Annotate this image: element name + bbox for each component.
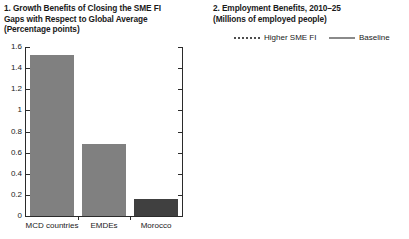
- panel1-ytick-right: [178, 110, 182, 111]
- panel2-title-line1: 2. Employment Benefits, 2010–25: [213, 3, 407, 14]
- panel1-ytick-right: [178, 216, 182, 217]
- panel1-title-line1: 1. Growth Benefits of Closing the SME FI: [4, 3, 200, 14]
- panel1-ytick-right: [178, 153, 182, 154]
- panel1-ytick-right: [178, 195, 182, 196]
- panel1-ytick-label: 1.2: [11, 85, 22, 93]
- panel1-ytick-right: [178, 89, 182, 90]
- panel1-ytick-left: [26, 47, 30, 48]
- panel2-title-line2: (Millions of employed people): [213, 14, 407, 25]
- panel1-xtick: [130, 216, 131, 220]
- panel1-plot-area: 00.20.40.60.811.21.41.6MCD countriesEMDE…: [25, 47, 183, 217]
- dashed-line-icon: [234, 37, 260, 39]
- panel1-xtick-label: EMDEs: [90, 221, 117, 230]
- panel1-ytick-label: 1.4: [11, 64, 22, 72]
- panel1-ytick-left: [26, 216, 30, 217]
- panel1-ytick-label: 0: [18, 212, 22, 220]
- panel-growth-benefits: 1. Growth Benefits of Closing the SME FI…: [0, 0, 205, 239]
- panel2-legend: Higher SME FI Baseline: [224, 33, 402, 44]
- legend-label-baseline: Baseline: [359, 33, 390, 42]
- figure-container: 1. Growth Benefits of Closing the SME FI…: [0, 0, 409, 239]
- panel1-title: 1. Growth Benefits of Closing the SME FI…: [4, 3, 200, 35]
- panel1-ytick-label: 0.2: [11, 191, 22, 199]
- panel2-title: 2. Employment Benefits, 2010–25 (Million…: [213, 3, 407, 24]
- panel1-ytick-right: [178, 68, 182, 69]
- legend-item-baseline: Baseline: [329, 33, 390, 42]
- panel1-ytick-right: [178, 47, 182, 48]
- panel1-ytick-right: [178, 174, 182, 175]
- panel1-ytick-label: 1: [18, 106, 22, 114]
- panel1-ytick-label: 0.8: [11, 128, 22, 136]
- bar-morocco: [134, 199, 178, 216]
- panel1-title-line3: (Percentage points): [4, 24, 200, 35]
- bar-mcd-countries: [30, 55, 74, 216]
- legend-item-higher-sme-fi: Higher SME FI: [234, 33, 316, 42]
- legend-label-higher-sme-fi: Higher SME FI: [264, 33, 316, 42]
- panel1-ytick-label: 1.6: [11, 43, 22, 51]
- panel1-ytick-right: [178, 132, 182, 133]
- panel1-ytick-label: 0.6: [11, 149, 22, 157]
- panel1-xtick: [78, 216, 79, 220]
- panel1-ytick-label: 0.4: [11, 170, 22, 178]
- panel1-xtick-label: MCD countries: [26, 221, 79, 230]
- bar-emdes: [82, 144, 126, 216]
- solid-line-icon: [329, 37, 355, 39]
- panel1-title-line2: Gaps with Respect to Global Average: [4, 14, 200, 25]
- panel1-xtick-label: Morocco: [141, 221, 172, 230]
